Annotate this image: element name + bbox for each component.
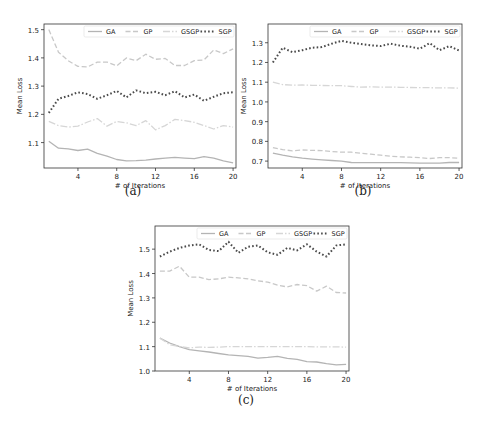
line-chart-b: 0.70.80.91.01.11.21.348121620# of Iterat… (240, 0, 483, 190)
y-tick-label: 1.1 (252, 79, 263, 87)
caption-b: (b) (343, 184, 383, 198)
legend-label-ga: GA (106, 28, 116, 36)
x-tick-label: 8 (339, 173, 343, 181)
chart-panel-b: 0.70.80.91.01.11.21.348121620# of Iterat… (240, 0, 483, 210)
series-line-sgp (273, 41, 459, 63)
x-tick-label: 4 (76, 173, 81, 181)
legend-label-gp: GP (257, 230, 266, 238)
series-line-ga (49, 141, 233, 163)
legend-label-sgp: SGP (445, 28, 458, 36)
x-tick-label: 16 (190, 173, 199, 181)
legend-label-gsgp: GSGP (407, 28, 425, 36)
legend-label-sgp: SGP (219, 28, 232, 36)
y-tick-label: 1.2 (252, 59, 263, 67)
line-chart-a: 1.11.21.31.41.548121620# of IterationsMe… (0, 0, 240, 190)
y-tick-label: 1.4 (139, 271, 151, 279)
y-tick-label: 0.7 (252, 158, 263, 166)
chart-panel-c: 1.01.11.21.31.41.548121620# of Iteration… (110, 205, 370, 431)
legend-label-gp: GP (144, 28, 153, 36)
y-axis-label: Mean Loss (240, 77, 248, 114)
series-line-gsgp (49, 119, 233, 130)
series-line-sgp (49, 90, 233, 113)
x-tick-label: 20 (342, 376, 351, 384)
y-tick-label: 1.2 (28, 111, 39, 119)
y-tick-label: 0.8 (252, 138, 263, 146)
legend: GAGPGSGPSGP (197, 228, 347, 239)
y-tick-label: 1.2 (139, 319, 150, 327)
series-line-gp (273, 148, 459, 159)
x-tick-label: 20 (455, 173, 464, 181)
legend-label-ga: GA (332, 28, 342, 36)
x-tick-label: 8 (226, 376, 230, 384)
plot-frame (268, 24, 462, 168)
x-tick-label: 4 (300, 173, 305, 181)
caption-a: (a) (113, 184, 153, 198)
x-tick-label: 4 (187, 376, 192, 384)
x-tick-label: 16 (415, 173, 424, 181)
y-tick-label: 1.1 (139, 344, 150, 352)
y-tick-label: 0.9 (252, 119, 263, 127)
legend-label-sgp: SGP (332, 230, 345, 238)
plot-frame (155, 226, 349, 371)
y-tick-label: 1.0 (139, 368, 150, 376)
y-tick-label: 1.3 (28, 83, 39, 91)
legend-label-gsgp: GSGP (294, 230, 312, 238)
line-chart-c: 1.01.11.21.31.41.548121620# of Iteration… (110, 205, 370, 400)
series-line-ga (160, 338, 346, 365)
y-tick-label: 1.0 (252, 99, 263, 107)
y-tick-label: 1.5 (139, 246, 150, 254)
x-tick-label: 8 (114, 173, 118, 181)
legend-label-ga: GA (219, 230, 229, 238)
legend: GAGPGSGPSGP (84, 26, 234, 37)
x-tick-label: 20 (229, 173, 238, 181)
x-tick-label: 12 (376, 173, 385, 181)
chart-panel-a: 1.11.21.31.41.548121620# of IterationsMe… (0, 0, 240, 210)
y-tick-label: 1.3 (139, 295, 150, 303)
x-tick-label: 16 (302, 376, 311, 384)
series-line-sgp (160, 242, 346, 257)
legend: GAGPGSGPSGP (310, 26, 460, 37)
series-line-gp (160, 266, 346, 293)
x-tick-label: 12 (151, 173, 160, 181)
x-tick-label: 12 (263, 376, 272, 384)
y-tick-label: 1.4 (28, 55, 40, 63)
y-axis-label: Mean Loss (127, 280, 135, 317)
legend-label-gp: GP (370, 28, 379, 36)
y-tick-label: 1.1 (28, 140, 39, 148)
y-tick-label: 1.3 (252, 40, 263, 48)
series-line-gsgp (160, 338, 346, 348)
x-axis-label: # of Iterations (227, 385, 278, 393)
plot-frame (44, 24, 236, 168)
y-axis-label: Mean Loss (16, 77, 24, 114)
series-line-gsgp (273, 82, 459, 88)
legend-label-gsgp: GSGP (181, 28, 199, 36)
caption-c: (c) (226, 393, 266, 407)
y-tick-label: 1.5 (28, 27, 39, 35)
